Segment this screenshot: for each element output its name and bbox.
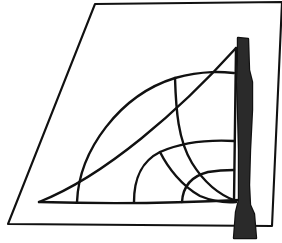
geometric-construction-drawing <box>0 0 282 243</box>
figure-root <box>0 0 282 243</box>
